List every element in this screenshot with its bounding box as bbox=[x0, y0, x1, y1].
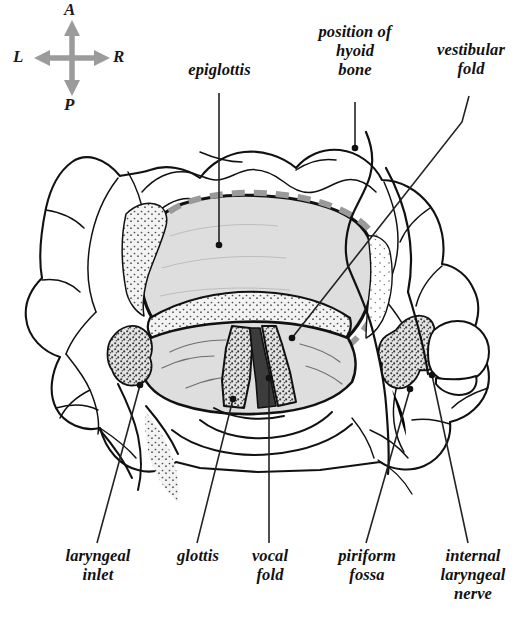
compass-arrow-left bbox=[34, 50, 50, 66]
compass-arrow-anterior bbox=[64, 20, 80, 36]
label-vocal-fold: vocal fold bbox=[231, 546, 309, 584]
compass-arrow-right bbox=[94, 50, 110, 66]
label-hyoid-bone: position of hyoid bone bbox=[295, 22, 415, 79]
label-laryngeal-inlet: laryngeal inlet bbox=[42, 546, 154, 584]
label-piriform-fossa: piriform fossa bbox=[318, 546, 416, 584]
compass-arrow-posterior bbox=[64, 80, 80, 96]
compass-label-anterior: A bbox=[64, 0, 75, 20]
compass-label-posterior: P bbox=[64, 95, 74, 115]
compass-label-left: L bbox=[13, 47, 23, 67]
larynx-anatomy-figure bbox=[0, 0, 530, 619]
label-glottis: glottis bbox=[153, 546, 243, 565]
label-internal-laryngeal-nerve: internal laryngeal nerve bbox=[418, 546, 528, 603]
label-epiglottis: epiglottis bbox=[157, 60, 282, 79]
compass-label-right: R bbox=[113, 47, 124, 67]
label-vestibular-fold: vestibular fold bbox=[412, 40, 530, 78]
